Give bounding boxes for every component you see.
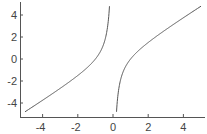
y-tick-label: 4	[11, 9, 17, 21]
x-tick-label: 0	[110, 121, 116, 133]
x-tick-label: -2	[71, 121, 81, 133]
y-axis: 420-2-4	[7, 2, 23, 117]
plot-lines	[25, 6, 201, 112]
x-tick-label: 2	[145, 121, 151, 133]
y-tick-label: 0	[11, 53, 17, 65]
y-tick-label: -2	[7, 75, 17, 87]
x-tick-label: -4	[36, 121, 46, 133]
x-tick-label: 4	[180, 121, 186, 133]
left-branch-line	[25, 6, 109, 112]
x-axis: -4-2024	[20, 114, 205, 133]
y-tick-label: -4	[7, 97, 17, 109]
right-branch-line	[117, 6, 201, 112]
y-tick-label: 2	[11, 31, 17, 43]
chart: 420-2-4 -4-2024	[0, 0, 207, 134]
